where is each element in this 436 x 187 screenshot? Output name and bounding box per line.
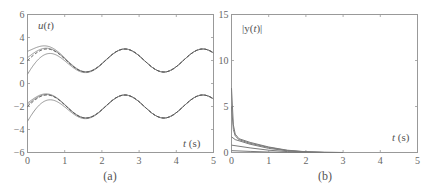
caption-b: (b) <box>318 169 332 183</box>
x-tick-label: 2 <box>303 155 308 166</box>
ylabel-b: |y(t)| <box>242 22 262 35</box>
y-tick-label: 6 <box>20 9 25 20</box>
caption-a: (a) <box>103 169 116 183</box>
x-tick-label: 4 <box>378 155 383 166</box>
x-tick-label: 4 <box>174 155 179 166</box>
error-trajectory-line <box>232 137 325 153</box>
y-tick-label: 10 <box>219 55 229 66</box>
x-tick-label: 3 <box>341 155 346 166</box>
trajectory-line <box>28 95 214 121</box>
y-tick-label: 4 <box>20 32 25 43</box>
y-tick-label: 2 <box>20 55 25 66</box>
y-tick-label: 0 <box>20 78 25 89</box>
plot-frame-b <box>232 15 418 153</box>
x-tick-label: 5 <box>415 155 420 166</box>
y-tick-label: −4 <box>14 124 25 135</box>
x-tick-label: 2 <box>99 155 104 166</box>
trajectory-line <box>28 49 214 74</box>
panel-a: 012345−6−4−20246 u(t) t (s) (a) <box>14 9 216 183</box>
curves-a <box>28 46 214 122</box>
x-tick-label: 1 <box>266 155 271 166</box>
plot-frame-a <box>28 15 214 153</box>
x-tick-label: 1 <box>62 155 67 166</box>
reference-dashed-line <box>28 49 214 72</box>
curves-b <box>232 88 344 152</box>
x-tick-label: 5 <box>211 155 216 166</box>
y-tick-label: 15 <box>219 9 229 20</box>
y-tick-label: −2 <box>14 101 25 112</box>
ylabel-a: u(t) <box>38 19 54 32</box>
x-tick-label: 0 <box>229 155 234 166</box>
error-trajectory-line <box>232 107 344 153</box>
y-tick-label: 5 <box>224 101 229 112</box>
y-tick-label: −6 <box>14 147 25 158</box>
xlabel-b: t (s) <box>392 131 410 144</box>
figure: 012345−6−4−20246 u(t) t (s) (a) 01234505… <box>0 0 436 187</box>
xlabel-a: t (s) <box>183 137 201 150</box>
x-tick-label: 0 <box>25 155 30 166</box>
panel-b: 012345051015 |y(t)| t (s) (b) <box>219 9 421 183</box>
y-tick-label: 0 <box>224 147 229 158</box>
x-tick-label: 3 <box>137 155 142 166</box>
reference-dashed-line <box>28 95 214 118</box>
